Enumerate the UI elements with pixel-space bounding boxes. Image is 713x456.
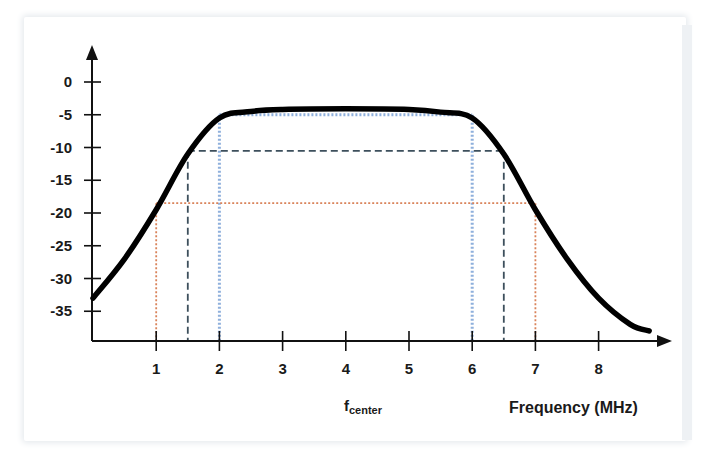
- x-ticks: 12345678: [152, 331, 603, 377]
- x-axis-arrow-icon: [657, 335, 672, 347]
- y-axis-arrow-icon: [86, 45, 98, 60]
- y-tick-label: -20: [50, 204, 72, 221]
- x-axis-title: Frequency (MHz): [509, 399, 638, 416]
- y-tick-label: -10: [50, 139, 72, 156]
- x-tick-label: 8: [594, 360, 602, 377]
- filter-response-curve: [93, 109, 649, 331]
- x-tick-label: 5: [405, 360, 413, 377]
- x-tick-label: 2: [215, 360, 223, 377]
- x-tick-label: 1: [152, 360, 160, 377]
- y-tick-label: 0: [64, 73, 72, 90]
- chart-canvas: 0-5-10-15-20-25-30-35 12345678 fcenter F…: [0, 0, 713, 456]
- y-tick-label: -30: [50, 270, 72, 287]
- y-ticks: 0-5-10-15-20-25-30-35: [50, 73, 101, 319]
- x-tick-label: 7: [531, 360, 539, 377]
- y-tick-label: -35: [50, 302, 72, 319]
- x-tick-label: 3: [278, 360, 286, 377]
- y-tick-label: -15: [50, 171, 72, 188]
- axes: [86, 45, 672, 347]
- x-tick-label: 4: [342, 360, 351, 377]
- reference-lines: [156, 115, 535, 341]
- y-tick-label: -5: [59, 106, 72, 123]
- y-tick-label: -25: [50, 237, 72, 254]
- x-tick-label: 6: [468, 360, 476, 377]
- f-center-label: fcenter: [344, 397, 383, 416]
